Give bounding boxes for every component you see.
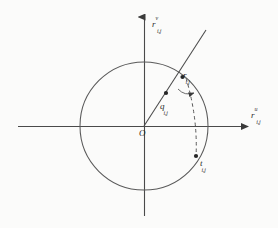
figure-canvas [0,0,278,228]
vector-ray-line [144,30,206,126]
horizontal-axis-label-superscript: u [255,106,258,112]
vector-q-label: qi,j [160,96,169,114]
vertical-axis-label-base: r [152,19,156,29]
point-q-dot [164,91,168,95]
vertical-axis-label-superscript: v [156,15,158,21]
point-r-label: ri,j [183,65,191,83]
horizontal-axis-label: rui,j [251,105,262,123]
geometric-figure: rvi,j rui,j ri,j qi,j ti,j O [0,0,278,228]
point-t-label: ti,j [200,153,207,171]
horizontal-axis-label-base: r [251,110,255,120]
point-r-label-subscript: i,j [186,79,190,85]
origin-label: O [139,129,146,138]
vertical-axis-label-subscript: i,j [157,28,161,34]
angle-arc [178,89,194,94]
vector-q-label-subscript: i,j [164,110,168,116]
point-t-dot [194,154,198,158]
dashed-chord [186,78,196,157]
vertical-axis-label: rvi,j [152,14,162,32]
horizontal-axis-label-subscript: i,j [256,119,260,125]
point-t-label-subscript: i,j [202,167,206,173]
